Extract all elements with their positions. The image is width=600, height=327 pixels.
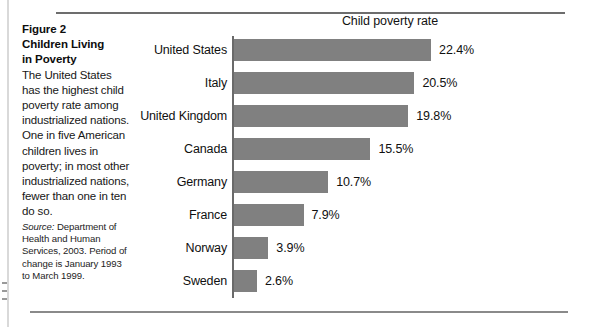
chart-bar — [234, 204, 304, 226]
category-label: Germany — [130, 175, 227, 189]
bar-value-label: 10.7% — [336, 175, 371, 189]
chart-bar — [234, 138, 370, 160]
bar-value-label: 3.9% — [276, 241, 304, 255]
chart-bar — [234, 237, 268, 259]
page-edge-tick — [2, 290, 7, 292]
chart-bar-row: France7.9% — [130, 203, 570, 236]
category-label: Sweden — [130, 274, 227, 288]
source-label: Source: — [22, 221, 54, 232]
figure-caption: Figure 2 Children Living in Poverty The … — [22, 22, 130, 283]
caption-title-line-2: Children Living — [22, 37, 130, 52]
chart-bar-row: Norway3.9% — [130, 236, 570, 269]
figure-caption-source: Source: Department of Health and Human S… — [22, 221, 130, 283]
chart-bar — [234, 171, 328, 193]
caption-title-line-3: in Poverty — [22, 52, 130, 67]
chart-bar — [234, 72, 414, 94]
category-label: Norway — [130, 241, 227, 255]
category-label: Canada — [130, 142, 227, 156]
category-label: United Kingdom — [130, 109, 227, 123]
chart-bar — [234, 39, 431, 61]
bar-value-label: 7.9% — [312, 208, 340, 222]
page-edge-tick — [2, 282, 7, 284]
bar-value-label: 20.5% — [422, 76, 457, 90]
bar-chart: Child poverty rate United States22.4%Ita… — [130, 14, 570, 309]
page-edge-tick — [2, 298, 7, 300]
category-label: France — [130, 208, 227, 222]
caption-title-line-1: Figure 2 — [22, 22, 130, 37]
chart-bar-row: Sweden2.6% — [130, 269, 570, 302]
chart-bar — [234, 105, 408, 127]
figure-page: Figure 2 Children Living in Poverty The … — [0, 0, 600, 327]
bar-value-label: 22.4% — [439, 43, 474, 57]
chart-bar-row: Canada15.5% — [130, 137, 570, 170]
category-label: United States — [130, 43, 227, 57]
category-label: Italy — [130, 76, 227, 90]
bottom-divider-rule — [30, 311, 568, 313]
chart-bar — [234, 270, 257, 292]
chart-bar-row: United Kingdom19.8% — [130, 104, 570, 137]
chart-bar-row: Germany10.7% — [130, 170, 570, 203]
figure-caption-body: The United States has the highest child … — [22, 68, 130, 220]
bar-value-label: 15.5% — [378, 142, 413, 156]
bar-value-label: 2.6% — [265, 274, 293, 288]
chart-plot-area: United States22.4%Italy20.5%United Kingd… — [130, 32, 570, 304]
chart-bar-row: Italy20.5% — [130, 71, 570, 104]
bar-value-label: 19.8% — [416, 109, 451, 123]
chart-title: Child poverty rate — [290, 14, 490, 28]
chart-bar-row: United States22.4% — [130, 38, 570, 71]
figure-caption-title: Figure 2 Children Living in Poverty — [22, 22, 130, 68]
page-left-edge — [7, 0, 9, 327]
